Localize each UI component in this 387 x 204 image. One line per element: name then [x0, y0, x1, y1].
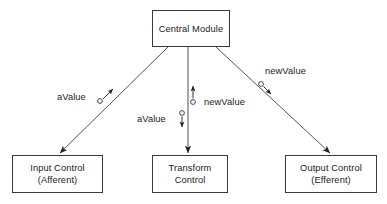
node-output-control-label-line2: (Efferent): [311, 174, 351, 186]
node-input-control[interactable]: Input Control (Afferent): [12, 155, 103, 193]
dataflow-arrow-avalue-input: [98, 89, 113, 103]
node-transform-control-label-line2: Control: [175, 174, 206, 186]
edge-label-avalue-transform: aValue: [137, 114, 166, 125]
diagram-canvas: Central Module Input Control (Afferent) …: [0, 0, 387, 204]
dataflow-origin-circle-icon: [191, 100, 196, 105]
dataflow-stem-icon: [103, 89, 113, 99]
node-output-control[interactable]: Output Control (Efferent): [285, 155, 377, 193]
node-transform-control-label-line1: Transform: [169, 162, 212, 174]
node-input-control-label-line2: (Afferent): [38, 174, 78, 186]
dataflow-origin-circle-icon: [180, 111, 185, 116]
dataflow-origin-circle-icon: [98, 99, 103, 104]
edge-label-avalue-input: aValue: [57, 92, 86, 103]
dataflow-origin-circle-icon: [259, 82, 264, 87]
dataflow-arrow-newvalue-transform: [191, 86, 196, 104]
node-central-module-label-line1: Central Module: [159, 23, 223, 35]
node-output-control-label-line1: Output Control: [300, 162, 362, 174]
node-input-control-label-line1: Input Control: [30, 162, 85, 174]
edge-label-newvalue-output: newValue: [265, 66, 306, 77]
node-central-module[interactable]: Central Module: [152, 10, 230, 47]
edge-label-newvalue-transform: newValue: [204, 97, 245, 108]
node-transform-control[interactable]: Transform Control: [152, 155, 228, 193]
dataflow-arrow-avalue-transform: [180, 111, 185, 127]
